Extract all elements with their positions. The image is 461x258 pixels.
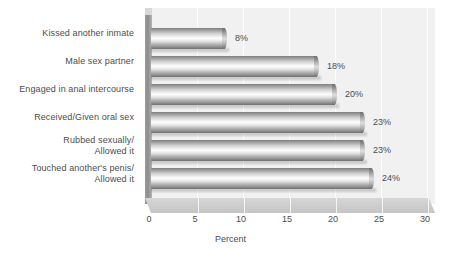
axis-wall-top-bevel [145, 8, 152, 15]
x-axis-title-wrapper: Percent [0, 234, 461, 244]
bar-end-cap [360, 140, 365, 161]
bar-value-label: 8% [235, 28, 248, 49]
bar-value-label: 20% [345, 84, 363, 105]
gridline [427, 8, 428, 204]
category-label: Rubbed sexually/ Allowed it [0, 135, 134, 156]
floor-tick [198, 198, 199, 213]
bar-end-cap [369, 168, 374, 189]
x-tick-label: 30 [420, 214, 430, 224]
bar [151, 112, 363, 133]
bar [151, 28, 225, 49]
x-axis-title: Percent [215, 234, 246, 244]
bar [151, 140, 363, 161]
bar-end-cap [360, 112, 365, 133]
bar-value-label: 24% [382, 168, 400, 189]
bar-end-cap [222, 28, 227, 49]
bar [151, 56, 317, 77]
floor-tick [336, 198, 337, 213]
floor-tick [428, 198, 429, 213]
bar-value-label: 23% [373, 112, 391, 133]
category-label: Touched another's penis/ Allowed it [0, 163, 134, 184]
bar-end-cap [314, 56, 319, 77]
x-tick-label: 15 [282, 214, 292, 224]
x-tick-label: 0 [146, 214, 151, 224]
x-axis-tick-labels: 0 5 10 15 20 25 30 [145, 214, 445, 228]
x-tick-label: 25 [374, 214, 384, 224]
category-label: Received/Given oral sex [0, 112, 134, 123]
plot-floor [145, 198, 435, 213]
x-tick-label: 10 [236, 214, 246, 224]
bar-value-label: 18% [327, 56, 345, 77]
bar-chart: Kissed another inmate Male sex partner E… [0, 0, 461, 258]
floor-tick [290, 198, 291, 213]
plot-area: 8% 18% 20% 23% 23% [145, 8, 435, 213]
category-label: Male sex partner [0, 56, 134, 67]
category-label: Kissed another inmate [0, 28, 134, 39]
floor-tick [382, 198, 383, 213]
x-tick-label: 20 [328, 214, 338, 224]
bar [151, 84, 335, 105]
bar [151, 168, 372, 189]
category-axis-labels: Kissed another inmate Male sex partner E… [0, 22, 138, 206]
category-label: Engaged in anal intercourse [0, 84, 134, 95]
bar-end-cap [332, 84, 337, 105]
bar-value-label: 23% [373, 140, 391, 161]
x-tick-label: 5 [192, 214, 197, 224]
floor-tick [244, 198, 245, 213]
